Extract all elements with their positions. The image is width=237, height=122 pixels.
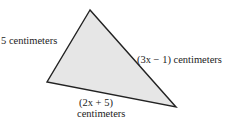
side-label-left: 5 centimeters xyxy=(1,35,57,46)
side-label-bottom-unit: centimeters xyxy=(77,108,125,119)
side-label-right: (3x − 1) centimeters xyxy=(137,54,222,65)
side-label-bottom-expression: (2x + 5) xyxy=(79,97,113,108)
triangle-diagram: 5 centimeters (3x − 1) centimeters (2x +… xyxy=(0,0,237,122)
